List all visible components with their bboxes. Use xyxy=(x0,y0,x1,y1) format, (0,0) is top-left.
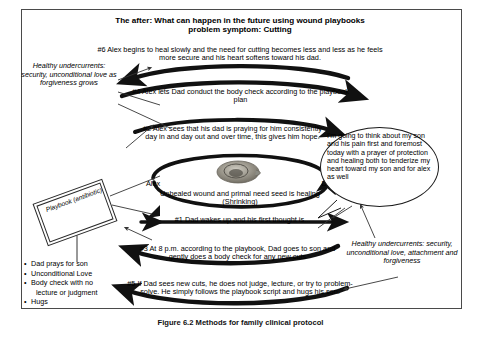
page-title: The after: What can happen in the future… xyxy=(80,16,400,35)
label-alex: Alex xyxy=(146,180,180,188)
playbook-bullet-list: Dad prays for son Unconditional Love Bod… xyxy=(24,259,124,307)
step-2-text: #2 Alex sees that his dad is praying for… xyxy=(140,125,325,142)
list-item: Body check with no xyxy=(24,278,124,288)
list-item-continuation: lecture or judgment xyxy=(24,288,124,298)
thought-bubble-text: I'm going to think about my son and his … xyxy=(327,132,431,182)
figure-caption: Figure 6.2 Methods for family clinical p… xyxy=(0,318,481,327)
list-item: Hugs xyxy=(24,297,124,307)
undercurrents-left-note: Healthy undercurrents: security, uncondi… xyxy=(19,62,119,88)
title-line-2: problem symptom: Cutting xyxy=(80,25,400,34)
step-5-text: #5 If Dad sees new cuts, he does not jud… xyxy=(125,280,355,297)
title-line-1: The after: What can happen in the future… xyxy=(80,16,400,25)
step-4-text: #4 Alex lets Dad conduct the body check … xyxy=(128,88,353,105)
seed-caption: Unhealed wound and primal need seed is h… xyxy=(150,190,330,207)
list-item: Unconditional Love xyxy=(24,269,124,279)
step-3-text: #3 At 8 p.m. according to the playbook, … xyxy=(135,245,340,262)
step-1-text: #1 Dad wakes up and his first thought is… xyxy=(140,216,345,224)
list-item: Dad prays for son xyxy=(24,259,124,269)
seed-graphic xyxy=(217,161,260,183)
undercurrents-right-note: Healthy undercurrents: security, uncondi… xyxy=(336,240,468,266)
step-6-text: #6 Alex begins to heal slowly and the ne… xyxy=(90,46,390,63)
